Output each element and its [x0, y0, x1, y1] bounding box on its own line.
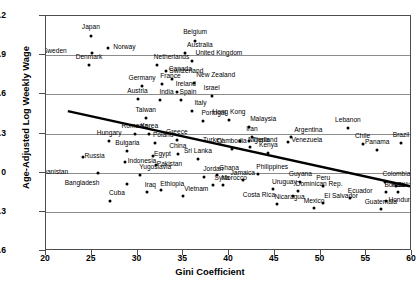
- data-point: [203, 175, 206, 178]
- data-point-label: Peru: [316, 175, 330, 182]
- data-point-label: Ecuador: [348, 188, 373, 195]
- x-tick-mark: [365, 250, 366, 255]
- data-point: [123, 160, 126, 163]
- data-point-label: Jamaica: [230, 170, 255, 177]
- data-point: [221, 184, 224, 187]
- data-point: [161, 82, 164, 85]
- data-point-label: Iraq: [145, 182, 156, 189]
- data-point-label: Vietnam: [184, 185, 208, 192]
- x-tick-mark: [91, 250, 92, 255]
- gridline: [46, 94, 410, 95]
- data-point: [211, 184, 214, 187]
- data-point: [136, 97, 139, 100]
- data-point-label: Ethiopia: [160, 180, 184, 187]
- data-point-label: Australia: [187, 42, 213, 49]
- data-point-label: Argentina: [294, 126, 322, 133]
- data-point-label: Spain: [180, 89, 197, 96]
- data-point: [155, 63, 158, 66]
- data-point-label: Korea: [141, 123, 159, 130]
- data-point-label: Guyana: [289, 171, 312, 178]
- data-point: [275, 203, 278, 206]
- data-point: [346, 126, 349, 129]
- data-point: [257, 172, 260, 175]
- data-point: [385, 191, 388, 194]
- data-point: [322, 185, 325, 188]
- data-point: [109, 199, 112, 202]
- data-point-label: India: [159, 88, 173, 95]
- data-point: [313, 206, 316, 209]
- x-tick-mark: [182, 250, 183, 255]
- data-point: [191, 109, 194, 112]
- data-point-label: Lebanon: [335, 116, 361, 123]
- data-point: [125, 182, 128, 185]
- data-point: [191, 60, 194, 63]
- data-point-label: Haiti: [392, 181, 405, 188]
- data-point-label: Costa Rica: [243, 191, 275, 198]
- data-point: [160, 188, 163, 191]
- x-tick-mark: [274, 250, 275, 255]
- data-point: [97, 171, 100, 174]
- plot-area: JapanNorwaySwedenDenmarkBelgiumAustralia…: [45, 15, 411, 250]
- data-point: [175, 91, 178, 94]
- x-tick-mark: [228, 250, 229, 255]
- data-point-label: Afghanistan: [45, 168, 68, 175]
- data-point: [348, 197, 351, 200]
- data-point: [287, 140, 290, 143]
- data-point-label: Nicaragua: [275, 194, 305, 201]
- data-point: [267, 152, 270, 155]
- data-point: [88, 63, 91, 66]
- y-tick-label: 0.6: [0, 88, 6, 98]
- data-point-label: Cambodia: [217, 137, 247, 144]
- x-tick-mark: [320, 250, 321, 255]
- data-point-label: Malaysia: [250, 116, 276, 123]
- data-point-label: Taiwan: [135, 107, 156, 114]
- y-axis-title: Age-Adjusted Log Weekly Wage: [20, 43, 31, 193]
- x-tick-mark: [411, 250, 412, 255]
- data-point: [153, 142, 156, 145]
- data-point-label: Ireland: [176, 81, 196, 88]
- data-point: [241, 178, 244, 181]
- y-tick-label: 0: [0, 167, 6, 177]
- data-point-label: Hong Kong: [213, 108, 246, 115]
- y-tick-label: −0.6: [0, 245, 6, 255]
- data-point-label: New Zealand: [196, 71, 235, 78]
- x-tick-mark: [45, 250, 46, 255]
- data-point: [144, 116, 147, 119]
- data-point: [376, 149, 379, 152]
- data-point-label: Germany: [129, 75, 156, 82]
- data-point-label: Japan: [82, 24, 100, 31]
- data-point: [145, 191, 148, 194]
- data-point-label: Bangladesh: [65, 179, 100, 186]
- data-point-label: Sri Lanka: [184, 148, 212, 155]
- data-point-label: Bulgaria: [115, 140, 139, 147]
- data-point: [216, 174, 219, 177]
- data-point: [397, 190, 400, 193]
- y-tick-label: 0.3: [0, 128, 6, 138]
- data-point-label: Hungary: [97, 129, 122, 136]
- data-point-label: Iran: [246, 126, 257, 133]
- data-point-label: Sweden: [45, 48, 67, 55]
- y-tick-label: 1.2: [0, 10, 6, 20]
- data-point: [202, 120, 205, 123]
- data-point-label: Russia: [85, 153, 105, 160]
- data-point-label: Colombia: [383, 171, 411, 178]
- data-point: [133, 133, 136, 136]
- y-tick-label: −0.3: [0, 206, 6, 216]
- data-point-label: Uruguay: [272, 179, 297, 186]
- x-axis-title: Gini Coefficient: [0, 266, 420, 277]
- data-point: [196, 157, 199, 160]
- data-point-label: Guatemala: [365, 198, 397, 205]
- gridline: [46, 212, 410, 213]
- data-point: [108, 139, 111, 142]
- data-point: [379, 207, 382, 210]
- data-point-label: France: [160, 73, 181, 80]
- data-point: [176, 153, 179, 156]
- data-point: [139, 173, 142, 176]
- data-point-label: Italy: [194, 99, 206, 106]
- data-point: [210, 95, 213, 98]
- data-point: [361, 142, 364, 145]
- data-point: [249, 146, 252, 149]
- data-point: [175, 139, 178, 142]
- data-point: [400, 142, 403, 145]
- data-point: [179, 99, 182, 102]
